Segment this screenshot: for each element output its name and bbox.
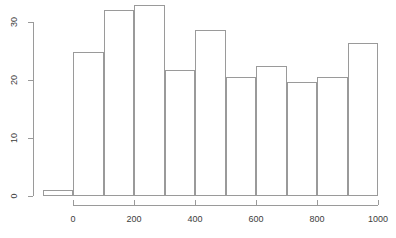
histogram-bar bbox=[317, 77, 348, 196]
x-axis-tick-label: 800 bbox=[287, 214, 347, 224]
y-axis-tick-label: 30 bbox=[8, 10, 20, 34]
x-axis-tick bbox=[134, 200, 135, 205]
y-axis-tick bbox=[28, 80, 33, 81]
y-axis-tick bbox=[28, 22, 33, 23]
histogram-bar bbox=[195, 30, 226, 196]
histogram-bar bbox=[287, 82, 318, 196]
histogram-bar bbox=[226, 77, 257, 196]
x-axis-line bbox=[73, 205, 378, 206]
x-axis-tick bbox=[195, 200, 196, 205]
x-axis-tick bbox=[378, 200, 379, 205]
histogram-bar bbox=[134, 5, 165, 196]
y-axis-tick-label: 20 bbox=[8, 68, 20, 92]
histogram-bar bbox=[165, 70, 196, 196]
y-axis-tick bbox=[28, 196, 33, 197]
x-axis-tick-label: 0 bbox=[43, 214, 103, 224]
histogram-bar bbox=[256, 66, 287, 197]
x-axis-tick bbox=[256, 200, 257, 205]
x-axis-tick bbox=[73, 200, 74, 205]
plot-panel: 0102030 02004006008001000 bbox=[0, 0, 396, 238]
x-axis-tick-label: 1000 bbox=[348, 214, 396, 224]
y-axis-tick-label: 0 bbox=[8, 184, 20, 208]
x-axis-tick-label: 600 bbox=[226, 214, 286, 224]
histogram-bar bbox=[43, 190, 74, 196]
y-axis-tick bbox=[28, 138, 33, 139]
x-axis-tick-label: 200 bbox=[104, 214, 164, 224]
y-axis-tick-label: 10 bbox=[8, 126, 20, 150]
histogram-bar bbox=[73, 52, 104, 196]
histogram-bar bbox=[104, 10, 135, 196]
x-axis-tick-label: 400 bbox=[165, 214, 225, 224]
histogram-bar bbox=[348, 43, 379, 196]
y-axis-line bbox=[33, 22, 34, 196]
histogram-chart: 0102030 02004006008001000 bbox=[0, 0, 396, 238]
x-axis-tick bbox=[317, 200, 318, 205]
